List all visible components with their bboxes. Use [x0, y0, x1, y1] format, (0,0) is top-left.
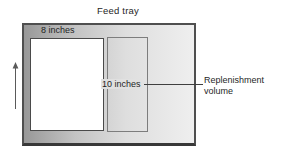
paper-width-label: 8 inches [41, 25, 75, 35]
figure-title: Feed tray [97, 5, 139, 16]
callout-label-line2: volume [204, 86, 264, 97]
callout-label-line1: Replenishment [204, 75, 264, 86]
up-arrow-icon [11, 62, 20, 110]
callout-line [144, 84, 203, 85]
paper-height-label: 10 inches [101, 79, 142, 89]
paper-sheet [30, 38, 104, 131]
figure-canvas: Feed tray 8 inches 10 inches Replenishme… [0, 0, 290, 159]
callout-label: Replenishment volume [204, 75, 264, 97]
